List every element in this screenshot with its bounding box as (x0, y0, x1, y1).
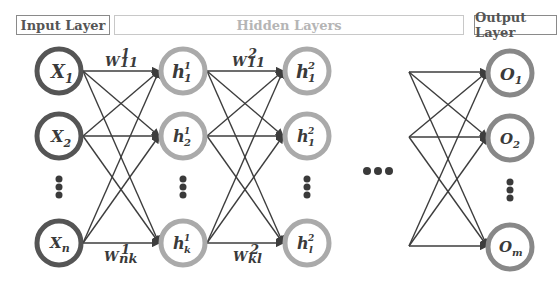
svg-text:W: W (105, 54, 121, 69)
hidden1-node-k: h 1 k (161, 221, 205, 265)
output-node-o1: O1 (488, 51, 532, 95)
weight-label-w1-nk: W 1 nk (104, 242, 137, 266)
hidden2-node-2: h 2 1 (285, 114, 329, 158)
svg-text:l: l (309, 244, 313, 255)
output-node-om: Om (488, 225, 532, 269)
svg-text:k: k (184, 244, 191, 255)
svg-text:1: 1 (308, 72, 316, 85)
svg-text:2: 2 (183, 137, 191, 148)
svg-text:W: W (232, 54, 248, 69)
output-node-o2: O2 (488, 116, 532, 160)
hidden1-node-1: h 1 1 (161, 49, 205, 93)
hidden1-node-2: h 1 2 (161, 114, 205, 158)
hidden2-node-1: h 2 1 (285, 49, 329, 93)
svg-text:1: 1 (308, 137, 315, 148)
input-layer-nodes: X1 X2 Xn (37, 49, 81, 265)
output-layer-nodes: O1 O2 Om (488, 51, 532, 269)
svg-text:nk: nk (119, 251, 137, 266)
layers-horizontal-ellipsis (363, 167, 393, 175)
output-vertical-ellipsis (507, 179, 514, 202)
hidden1-vertical-ellipsis (180, 176, 187, 199)
svg-text:1: 1 (184, 126, 190, 136)
weight-label-w1-11: W 1 11 (105, 46, 138, 70)
input-node-xn: Xn (37, 221, 81, 265)
svg-text:1: 1 (184, 72, 192, 85)
hidden-layer-2-nodes: h 2 1 h 2 1 h 2 l (285, 49, 329, 265)
svg-text:W: W (233, 249, 249, 264)
svg-text:kl: kl (248, 251, 262, 266)
hidden2-node-l: h 2 l (285, 221, 329, 265)
svg-text:h: h (297, 127, 309, 146)
edges-input-to-hidden1 (83, 71, 159, 243)
svg-text:11: 11 (120, 55, 138, 70)
edges-to-output (409, 72, 487, 246)
hidden-layer-1-nodes: h 1 1 h 1 2 h 1 k (161, 49, 205, 265)
svg-text:2: 2 (307, 60, 315, 71)
svg-text:h: h (173, 234, 185, 253)
svg-text:2: 2 (307, 126, 314, 136)
svg-text:11: 11 (247, 55, 265, 70)
svg-text:W: W (104, 249, 120, 264)
weight-label-w2-11: W 2 11 (232, 46, 265, 70)
weight-label-w2-kl: W 2 kl (233, 242, 262, 266)
input-vertical-ellipsis (56, 176, 63, 199)
neural-network-diagram: X1 X2 Xn h 1 1 h 1 2 (0, 0, 559, 287)
svg-text:2: 2 (307, 233, 314, 243)
svg-text:h: h (173, 127, 185, 146)
input-node-x1: X1 (37, 49, 81, 93)
input-node-x2: X2 (37, 114, 81, 158)
edges-hidden1-to-hidden2 (207, 71, 283, 243)
svg-text:h: h (297, 234, 309, 253)
svg-text:1: 1 (184, 233, 190, 243)
hidden2-vertical-ellipsis (304, 176, 311, 199)
svg-text:1: 1 (184, 60, 191, 71)
